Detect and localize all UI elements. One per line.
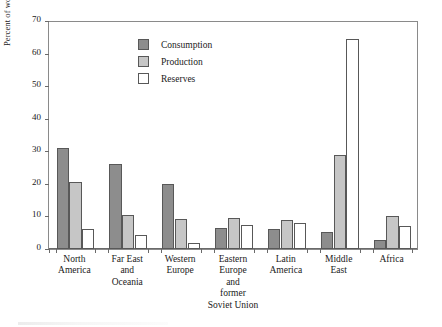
y-tick-label: 30 <box>1 144 41 154</box>
x-axis-tick <box>56 249 57 253</box>
bar-group <box>268 22 306 249</box>
x-axis-group-label: NorthAmerica <box>44 254 105 277</box>
bar-production <box>228 218 240 249</box>
y-tick-label: 40 <box>1 112 41 122</box>
x-label-line: Africa <box>361 254 422 265</box>
legend-item: Production <box>138 53 212 70</box>
bar-consumption <box>109 164 121 249</box>
legend-item: Reserves <box>138 70 212 87</box>
x-label-line: East <box>308 265 369 276</box>
x-label-line: Europe <box>203 265 264 276</box>
y-tick-label: 50 <box>1 79 41 89</box>
x-label-line: Middle <box>308 254 369 265</box>
x-label-line: and <box>203 277 264 288</box>
bar-reserves <box>188 243 200 250</box>
x-axis-tick <box>360 249 361 253</box>
bar-production <box>175 219 187 249</box>
y-tick-label: 70 <box>1 14 41 24</box>
y-tick-label: 20 <box>1 177 41 187</box>
bar-production <box>122 215 134 249</box>
x-label-line: and <box>97 265 158 276</box>
y-tick-mark <box>45 216 49 217</box>
x-axis-tick <box>412 249 413 253</box>
bar-reserves <box>294 223 306 249</box>
x-axis-tick <box>214 249 215 253</box>
y-tick-label: 60 <box>1 47 41 57</box>
y-tick-mark <box>45 151 49 152</box>
legend-swatch-reserves <box>138 73 149 84</box>
y-tick-mark <box>45 184 49 185</box>
legend-item: Consumption <box>138 36 212 53</box>
x-label-line: Europe <box>150 265 211 276</box>
bar-chart-figure: Percent of world total 010203040506070 N… <box>0 0 442 327</box>
bar-production <box>386 216 398 249</box>
y-axis-title: Percent of world total <box>2 0 12 78</box>
x-axis-group-label: EasternEuropeandformerSoviet Union <box>203 254 264 311</box>
bar-group <box>57 22 95 249</box>
x-axis-tick <box>267 249 268 253</box>
bar-reserves <box>135 235 147 249</box>
x-label-line: Oceania <box>97 277 158 288</box>
bar-group <box>374 22 412 249</box>
scan-artifact <box>18 322 168 325</box>
chart-legend: ConsumptionProductionReserves <box>138 36 212 87</box>
bar-consumption <box>215 228 227 249</box>
x-label-line: former <box>203 288 264 299</box>
bar-consumption <box>162 184 174 249</box>
x-label-line: Latin <box>255 254 316 265</box>
x-axis-group-label: Africa <box>361 254 422 265</box>
x-axis-tick <box>201 249 202 253</box>
bar-consumption <box>321 232 333 249</box>
x-axis-group-label: LatinAmerica <box>255 254 316 277</box>
legend-swatch-consumption <box>138 39 149 50</box>
legend-label: Consumption <box>161 40 212 50</box>
x-label-line: Eastern <box>203 254 264 265</box>
x-axis-tick <box>95 249 96 253</box>
bar-reserves <box>399 226 411 249</box>
x-axis-tick <box>108 249 109 253</box>
bar-reserves <box>346 39 358 249</box>
x-label-line: Soviet Union <box>203 300 264 311</box>
y-tick-mark <box>45 119 49 120</box>
bar-production <box>334 155 346 249</box>
x-axis-tick <box>148 249 149 253</box>
y-tick-label: 0 <box>1 242 41 252</box>
x-label-line: North <box>44 254 105 265</box>
x-axis-tick <box>49 249 50 253</box>
legend-label: Production <box>161 57 203 67</box>
bar-production <box>281 220 293 249</box>
x-axis-tick <box>307 249 308 253</box>
x-label-line: America <box>44 265 105 276</box>
x-label-line: Western <box>150 254 211 265</box>
legend-label: Reserves <box>161 74 195 84</box>
bar-group <box>321 22 359 249</box>
x-axis-tick <box>320 249 321 253</box>
x-axis-tick <box>373 249 374 253</box>
x-axis-group-label: Far EastandOceania <box>97 254 158 288</box>
x-label-line: Far East <box>97 254 158 265</box>
bar-group <box>215 22 253 249</box>
y-tick-mark <box>45 54 49 55</box>
y-tick-mark <box>45 86 49 87</box>
x-axis-tick <box>161 249 162 253</box>
bar-consumption <box>268 229 280 249</box>
bar-reserves <box>82 229 94 249</box>
bar-production <box>69 182 81 249</box>
bar-reserves <box>241 225 253 249</box>
bar-consumption <box>57 148 69 249</box>
bar-consumption <box>374 240 386 249</box>
y-tick-label: 10 <box>1 209 41 219</box>
plot-area: 010203040506070 <box>48 21 418 250</box>
x-axis-tick <box>254 249 255 253</box>
y-tick-mark <box>45 21 49 22</box>
x-axis-group-label: WesternEurope <box>150 254 211 277</box>
x-axis-group-label: MiddleEast <box>308 254 369 277</box>
x-label-line: America <box>255 265 316 276</box>
legend-swatch-production <box>138 56 149 67</box>
